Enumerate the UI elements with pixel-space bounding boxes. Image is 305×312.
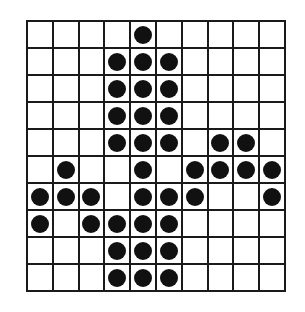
grid-cell-empty [183, 130, 209, 157]
grid-cell-empty [28, 49, 54, 76]
grid-cell-filled [131, 211, 157, 238]
grid-cell-filled [157, 211, 183, 238]
grid-cell-filled [28, 184, 54, 211]
grid-cell-empty [28, 130, 54, 157]
grid-cell-empty [260, 211, 286, 238]
grid-cell-empty [260, 76, 286, 103]
grid-cell-empty [260, 238, 286, 265]
grid-cell-filled [105, 211, 131, 238]
grid-cell-filled [131, 157, 157, 184]
grid-cell-empty [209, 103, 235, 130]
grid-cell-filled [131, 265, 157, 292]
grid-cell-empty [28, 157, 54, 184]
grid-cell-empty [28, 238, 54, 265]
grid-cell-empty [260, 130, 286, 157]
grid-cell-filled [131, 76, 157, 103]
grid-cell-filled [131, 103, 157, 130]
grid-cell-filled [157, 103, 183, 130]
grid-cell-filled [54, 157, 80, 184]
grid-cell-empty [54, 22, 80, 49]
grid-cell-empty [105, 184, 131, 211]
grid-cell-empty [183, 265, 209, 292]
grid-cell-empty [183, 103, 209, 130]
grid-cell-empty [234, 49, 260, 76]
grid-cell-filled [209, 130, 235, 157]
figure-root [0, 0, 305, 312]
grid-cell-filled [28, 211, 54, 238]
grid-cell-empty [234, 22, 260, 49]
grid-cell-empty [209, 76, 235, 103]
grid-cell-empty [28, 103, 54, 130]
grid-cell-empty [234, 76, 260, 103]
grid-cell-empty [209, 184, 235, 211]
grid-cell-filled [80, 184, 106, 211]
grid-cell-filled [260, 184, 286, 211]
grid-cell-empty [54, 49, 80, 76]
grid-cell-filled [157, 76, 183, 103]
grid-cell-empty [183, 49, 209, 76]
grid-cell-filled [131, 238, 157, 265]
grid-cell-empty [28, 76, 54, 103]
grid-cell-empty [54, 265, 80, 292]
grid-cell-filled [131, 184, 157, 211]
grid-cell-empty [183, 211, 209, 238]
grid-cell-empty [80, 157, 106, 184]
grid-cell-filled [105, 238, 131, 265]
grid-cell-empty [157, 22, 183, 49]
grid-cell-empty [54, 211, 80, 238]
grid-cell-filled [183, 184, 209, 211]
grid-cell-empty [234, 238, 260, 265]
grid-cell-filled [209, 157, 235, 184]
grid-cell-empty [28, 265, 54, 292]
grid-cell-empty [234, 265, 260, 292]
grid-cell-filled [157, 130, 183, 157]
grid-cell-filled [105, 265, 131, 292]
grid-cell-filled [234, 157, 260, 184]
grid-cell-filled [157, 265, 183, 292]
grid-cell-filled [105, 76, 131, 103]
grid-cell-filled [131, 130, 157, 157]
grid-cell-empty [105, 22, 131, 49]
grid-cell-empty [209, 211, 235, 238]
grid-cell-empty [105, 157, 131, 184]
grid-cell-empty [54, 103, 80, 130]
grid-cell-empty [54, 238, 80, 265]
grid-cell-empty [80, 238, 106, 265]
grid-cell-empty [209, 238, 235, 265]
grid-cell-empty [209, 22, 235, 49]
grid-cell-filled [157, 238, 183, 265]
grid-cell-empty [209, 265, 235, 292]
grid-cell-empty [183, 22, 209, 49]
grid-cell-empty [234, 211, 260, 238]
grid-cell-empty [80, 22, 106, 49]
grid-cell-empty [80, 265, 106, 292]
grid-cell-empty [234, 103, 260, 130]
grid-cell-empty [80, 103, 106, 130]
grid-cell-filled [105, 49, 131, 76]
dot-grid [26, 20, 286, 292]
grid-cell-filled [260, 157, 286, 184]
grid-cell-filled [131, 22, 157, 49]
grid-cell-empty [157, 157, 183, 184]
grid-cell-empty [260, 49, 286, 76]
grid-cell-filled [80, 211, 106, 238]
grid-cell-filled [157, 49, 183, 76]
grid-cell-empty [234, 184, 260, 211]
grid-cell-empty [80, 76, 106, 103]
grid-cell-empty [80, 130, 106, 157]
grid-cell-empty [183, 76, 209, 103]
grid-cell-filled [131, 49, 157, 76]
grid-cell-empty [260, 103, 286, 130]
grid-cell-filled [183, 157, 209, 184]
grid-cell-filled [54, 184, 80, 211]
grid-cell-empty [260, 265, 286, 292]
grid-cell-filled [105, 103, 131, 130]
grid-cell-empty [80, 49, 106, 76]
grid-cell-empty [183, 238, 209, 265]
grid-cell-empty [260, 22, 286, 49]
grid-cell-empty [54, 130, 80, 157]
grid-cell-filled [105, 130, 131, 157]
grid-cell-filled [234, 130, 260, 157]
grid-cell-empty [28, 22, 54, 49]
grid-cell-filled [157, 184, 183, 211]
